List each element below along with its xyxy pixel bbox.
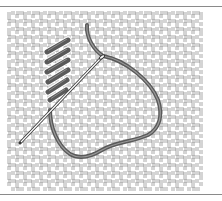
- needlepoint-illustration: [0, 0, 222, 201]
- illustration-frame: [0, 0, 222, 201]
- needle-icon: [20, 54, 105, 143]
- slanted-stitches: [47, 39, 68, 100]
- canvas-grid: [8, 12, 202, 190]
